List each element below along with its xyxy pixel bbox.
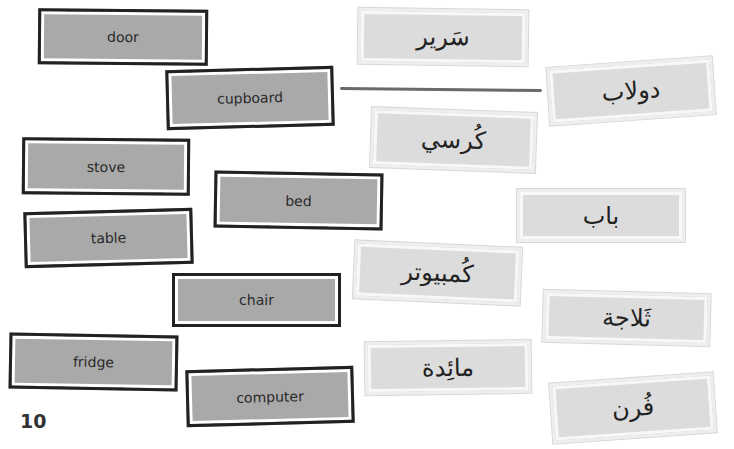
english-card-label: chair — [239, 292, 274, 308]
arabic-card-label: دولاب — [601, 75, 661, 107]
arabic-card-computer[interactable]: كُمبيوتر — [353, 240, 522, 305]
english-card-bed[interactable]: bed — [214, 171, 384, 231]
page-number: 10 — [20, 410, 46, 432]
english-card-cupboard[interactable]: cupboard — [165, 66, 335, 130]
arabic-card-cupboard[interactable]: دولاب — [546, 56, 716, 125]
match-line-cupboard — [340, 87, 542, 92]
arabic-card-label: ثَلاجة — [602, 303, 651, 332]
arabic-card-label: سَرير — [416, 23, 470, 52]
english-card-label: stove — [87, 158, 125, 174]
english-card-fridge[interactable]: fridge — [9, 333, 179, 392]
english-card-door[interactable]: door — [38, 8, 208, 65]
arabic-card-door[interactable]: باب — [517, 189, 685, 242]
arabic-card-label: كُرسي — [421, 125, 487, 155]
english-card-label: table — [91, 230, 127, 247]
english-card-label: door — [107, 29, 139, 45]
arabic-card-label: مائِدة — [422, 353, 474, 382]
english-card-label: computer — [236, 388, 304, 406]
english-card-computer[interactable]: computer — [185, 366, 354, 427]
english-card-table[interactable]: table — [23, 208, 193, 268]
arabic-card-bed[interactable]: سَرير — [358, 8, 529, 66]
arabic-card-table[interactable]: مائِدة — [365, 340, 532, 395]
arabic-card-chair[interactable]: كُرسي — [370, 107, 537, 173]
english-card-label: bed — [285, 192, 312, 208]
arabic-card-stove[interactable]: فُرن — [549, 372, 717, 443]
arabic-card-label: كُمبيوتر — [401, 257, 474, 288]
english-card-chair[interactable]: chair — [172, 273, 341, 327]
arabic-card-label: باب — [583, 202, 620, 230]
arabic-card-fridge[interactable]: ثَلاجة — [542, 290, 710, 346]
english-card-stove[interactable]: stove — [22, 137, 190, 195]
arabic-card-label: فُرن — [611, 393, 655, 424]
english-card-label: fridge — [73, 354, 114, 371]
english-card-label: cupboard — [217, 89, 283, 107]
